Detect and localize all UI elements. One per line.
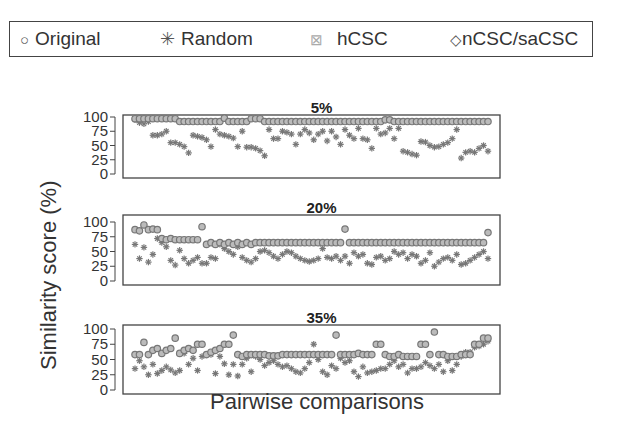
random-point — [400, 148, 406, 154]
y-tick-label: 50 — [91, 243, 108, 260]
y-tick-label: 25 — [91, 366, 108, 383]
random-point — [369, 261, 375, 267]
random-point — [288, 249, 294, 255]
random-point — [413, 152, 419, 158]
random-point — [400, 249, 406, 255]
random-point — [163, 244, 169, 250]
random-point — [284, 248, 290, 254]
random-point — [324, 254, 330, 260]
ncsc-point — [431, 329, 437, 335]
panel-1: 5%0255075100 — [83, 99, 500, 182]
random-point — [306, 130, 312, 136]
random-point — [395, 125, 401, 131]
random-point — [445, 254, 451, 260]
random-point — [355, 125, 361, 131]
random-point — [413, 253, 419, 259]
random-point — [181, 143, 187, 149]
random-point — [454, 251, 460, 257]
random-point — [458, 261, 464, 267]
random-point — [378, 131, 384, 137]
y-tick-label: 100 — [83, 108, 108, 125]
random-point — [190, 257, 196, 263]
random-point — [279, 251, 285, 257]
random-point — [306, 258, 312, 264]
y-tick-label: 25 — [91, 257, 108, 274]
random-point — [248, 259, 254, 265]
random-point — [176, 247, 182, 253]
random-point — [369, 145, 375, 151]
random-point — [449, 257, 455, 263]
ncsc-point — [427, 351, 433, 357]
ncsc-point — [485, 229, 491, 235]
random-point — [386, 255, 392, 261]
random-point — [235, 143, 241, 149]
random-point — [306, 359, 312, 365]
ncsc-point — [230, 332, 236, 338]
random-point — [208, 254, 214, 260]
random-point — [302, 365, 308, 371]
random-point — [284, 362, 290, 368]
ncsc-point — [422, 341, 428, 347]
random-point — [185, 150, 191, 156]
ncsc-point — [199, 224, 205, 230]
random-point — [145, 259, 151, 265]
random-point — [176, 367, 182, 373]
random-point — [436, 361, 442, 367]
random-point — [480, 248, 486, 254]
random-point — [328, 128, 334, 134]
random-point — [449, 367, 455, 373]
ncsc-point — [154, 226, 160, 232]
random-point — [163, 128, 169, 134]
random-point — [136, 255, 142, 261]
random-point — [467, 148, 473, 154]
random-point — [364, 370, 370, 376]
random-point — [248, 144, 254, 150]
random-point — [145, 372, 151, 378]
random-point — [212, 126, 218, 132]
ncsc-point — [333, 332, 339, 338]
random-point — [248, 369, 254, 375]
random-point — [150, 251, 156, 257]
ncsc-point — [342, 226, 348, 232]
random-point — [226, 372, 232, 378]
random-point — [462, 260, 468, 266]
random-point — [346, 260, 352, 266]
panel-2: 20%0255075100 — [83, 199, 500, 289]
random-point — [297, 131, 303, 137]
y-tick-label: 0 — [100, 381, 108, 398]
random-point — [351, 369, 357, 375]
random-point — [252, 255, 258, 261]
random-point — [467, 257, 473, 263]
random-point — [391, 248, 397, 254]
ncsc-point — [378, 341, 384, 347]
random-point — [172, 262, 178, 268]
random-point — [346, 132, 352, 138]
y-tick-label: 100 — [83, 213, 108, 230]
random-point — [485, 255, 491, 261]
random-point — [168, 367, 174, 373]
chart-panels: 5%025507510020%025507510035%0255075100 — [0, 0, 618, 440]
random-point — [360, 364, 366, 370]
random-point — [369, 369, 375, 375]
ncsc-point — [194, 237, 200, 243]
random-point — [364, 137, 370, 143]
random-point — [185, 361, 191, 367]
random-point — [190, 132, 196, 138]
random-point — [449, 135, 455, 141]
random-point — [333, 134, 339, 140]
random-point — [391, 135, 397, 141]
random-point — [226, 248, 232, 254]
ncsc-point — [485, 118, 491, 124]
random-point — [337, 141, 343, 147]
random-point — [230, 135, 236, 141]
random-point — [141, 244, 147, 250]
random-point — [136, 358, 142, 364]
random-point — [454, 126, 460, 132]
y-axis-label: Similarity score (%) — [36, 181, 62, 370]
y-tick-label: 75 — [91, 228, 108, 245]
random-point — [476, 251, 482, 257]
random-point — [319, 128, 325, 134]
random-point — [333, 365, 339, 371]
ncsc-point — [190, 347, 196, 353]
random-point — [293, 369, 299, 375]
